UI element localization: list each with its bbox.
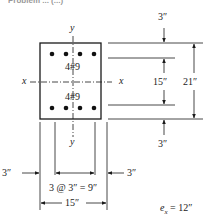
- top-cover-label: 3″: [158, 12, 167, 22]
- y-axis-label-top: y: [70, 23, 74, 33]
- bar-spacing-vertical-label: 15″: [153, 77, 167, 87]
- left-cover-label: 3″: [2, 168, 11, 178]
- total-width-label: 15″: [65, 198, 79, 208]
- rebar: [64, 52, 69, 57]
- rebar: [78, 52, 83, 57]
- eccentricity-value: = 12″: [168, 202, 193, 213]
- total-height-label: 21″: [183, 77, 197, 87]
- top-bars-label: 4#9: [65, 62, 80, 72]
- y-axis-label-bottom: y: [70, 137, 74, 147]
- x-axis-label-left: x: [22, 76, 26, 86]
- rebar: [78, 106, 83, 111]
- rebar: [92, 52, 97, 57]
- bottom-cover-label: 3″: [158, 139, 167, 149]
- rebar: [50, 106, 55, 111]
- rebar: [92, 106, 97, 111]
- bar-spacing-horizontal-label: 3 @ 3″ = 9″: [49, 183, 97, 193]
- bottom-bars-label: 4#9: [65, 92, 80, 102]
- right-cover-label: 3″: [127, 168, 136, 178]
- eccentricity-label: ex = 12″: [160, 203, 192, 216]
- column-section-diagram: [0, 0, 210, 217]
- rebar: [50, 52, 55, 57]
- rebar: [64, 106, 69, 111]
- x-axis-label-right: x: [119, 76, 123, 86]
